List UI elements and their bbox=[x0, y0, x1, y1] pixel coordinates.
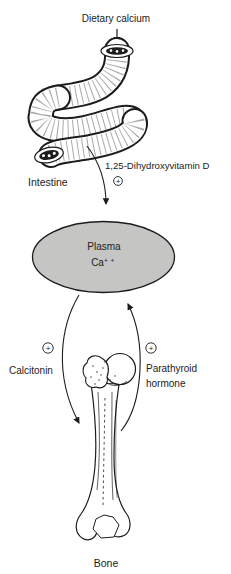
svg-text:+: + bbox=[149, 344, 154, 353]
stimulation-icon-vitamin-d: + bbox=[114, 177, 123, 186]
stimulation-icon-parathyroid: + bbox=[146, 343, 156, 353]
svg-text:+: + bbox=[46, 344, 51, 353]
arrow-plasma-to-bone bbox=[62, 295, 79, 423]
stimulation-icon-calcitonin: + bbox=[43, 343, 53, 353]
bone-illustration bbox=[76, 354, 135, 540]
parathyroid-hormone-label-line1: Parathyroid bbox=[146, 363, 197, 374]
calcitonin-label: Calcitonin bbox=[9, 365, 53, 376]
dietary-calcium-label: Dietary calcium bbox=[82, 13, 150, 24]
intestine-illustration bbox=[33, 45, 135, 166]
parathyroid-hormone-label-line2: hormone bbox=[146, 378, 186, 389]
vitamin-d-label: 1,25-Dihydroxyvitamin D bbox=[105, 160, 210, 171]
plasma-node: Plasma Ca+ + bbox=[33, 222, 175, 293]
physiology-diagram: Dietary calcium bbox=[0, 0, 231, 574]
bone-label: Bone bbox=[94, 557, 119, 569]
intestine-label: Intestine bbox=[28, 176, 68, 188]
svg-text:+: + bbox=[116, 177, 121, 186]
plasma-label-line1: Plasma bbox=[87, 241, 121, 252]
intestine-top-opening bbox=[101, 45, 133, 58]
